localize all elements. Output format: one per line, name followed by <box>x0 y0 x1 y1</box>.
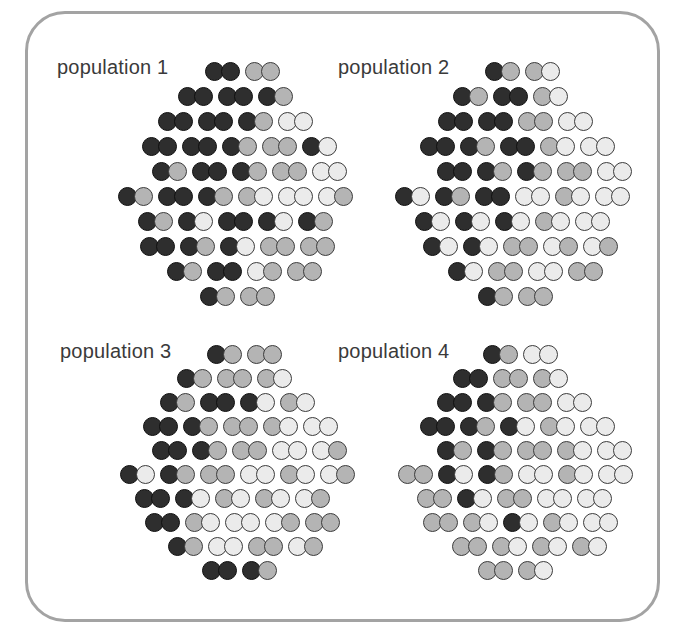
gray-allele-dot <box>519 237 538 256</box>
light-allele-dot <box>319 417 338 436</box>
individual-allele-pair <box>533 87 568 106</box>
population-1-row-9 <box>167 262 322 281</box>
light-allele-dot <box>508 537 527 556</box>
light-allele-dot <box>328 162 347 181</box>
individual-allele-pair <box>497 489 532 508</box>
dark-allele-dot <box>469 369 488 388</box>
gray-allele-dot <box>154 212 173 231</box>
light-allele-dot <box>224 537 243 556</box>
individual-allele-pair <box>523 345 558 364</box>
individual-allele-pair <box>198 187 233 206</box>
gray-allele-dot <box>336 465 355 484</box>
light-allele-dot <box>553 489 572 508</box>
individual-allele-pair <box>240 465 275 484</box>
population-1-row-7 <box>138 212 333 231</box>
dark-allele-dot <box>156 237 175 256</box>
gray-allele-dot <box>533 393 552 412</box>
gray-allele-dot <box>176 465 195 484</box>
individual-allele-pair <box>417 489 452 508</box>
gray-allele-dot <box>509 369 528 388</box>
light-allele-dot <box>574 112 593 131</box>
light-allele-dot <box>294 187 313 206</box>
individual-allele-pair <box>478 465 513 484</box>
individual-allele-pair <box>287 262 322 281</box>
individual-allele-pair <box>208 537 243 556</box>
figure-stage: population 1 population 2 population 3 p… <box>0 0 684 642</box>
individual-allele-pair <box>135 489 170 508</box>
gray-allele-dot <box>599 237 618 256</box>
individual-allele-pair <box>540 417 575 436</box>
individual-allele-pair <box>528 262 563 281</box>
dark-allele-dot <box>161 513 180 532</box>
individual-allele-pair <box>423 513 458 532</box>
light-allele-dot <box>571 187 590 206</box>
dark-allele-dot <box>168 441 187 460</box>
individual-allele-pair <box>143 417 178 436</box>
light-allele-dot <box>556 417 575 436</box>
individual-allele-pair <box>420 137 455 156</box>
individual-allele-pair <box>302 137 337 156</box>
gray-allele-dot <box>278 137 297 156</box>
light-allele-dot <box>556 137 575 156</box>
population-1-row-5 <box>152 162 347 181</box>
individual-allele-pair <box>262 137 297 156</box>
gray-allele-dot <box>184 537 203 556</box>
individual-allele-pair <box>580 417 615 436</box>
individual-allele-pair <box>280 465 315 484</box>
individual-allele-pair <box>457 489 492 508</box>
individual-allele-pair <box>517 162 552 181</box>
light-allele-dot <box>534 465 553 484</box>
individual-allele-pair <box>543 237 578 256</box>
population-4-row-1 <box>483 345 558 364</box>
light-allele-dot <box>274 212 293 231</box>
dark-allele-dot <box>194 87 213 106</box>
individual-allele-pair <box>488 262 523 281</box>
individual-allele-pair <box>138 212 173 231</box>
light-allele-dot <box>471 212 490 231</box>
gray-allele-dot <box>476 417 495 436</box>
light-allele-dot <box>551 212 570 231</box>
light-allele-dot <box>541 62 560 81</box>
individual-allele-pair <box>583 513 618 532</box>
individual-allele-pair <box>192 441 227 460</box>
individual-allele-pair <box>300 237 335 256</box>
population-2-row-8 <box>423 237 618 256</box>
individual-allele-pair <box>477 162 512 181</box>
individual-allele-pair <box>452 537 487 556</box>
individual-allele-pair <box>220 237 255 256</box>
gray-allele-dot <box>469 87 488 106</box>
population-3-row-2 <box>177 369 292 388</box>
individual-allele-pair <box>272 162 307 181</box>
light-allele-dot <box>593 489 612 508</box>
dark-allele-dot <box>453 393 472 412</box>
gray-allele-dot <box>494 561 513 580</box>
gray-allele-dot <box>261 62 280 81</box>
population-3-row-3 <box>160 393 315 412</box>
light-allele-dot <box>613 162 632 181</box>
light-allele-dot <box>613 441 632 460</box>
light-allele-dot <box>256 393 275 412</box>
light-allele-dot <box>279 417 298 436</box>
population-2-row-1 <box>485 62 560 81</box>
light-allele-dot <box>431 212 450 231</box>
individual-allele-pair <box>437 162 472 181</box>
individual-allele-pair <box>597 162 632 181</box>
individual-allele-pair <box>485 62 520 81</box>
individual-allele-pair <box>218 212 253 231</box>
gray-allele-dot <box>439 513 458 532</box>
individual-allele-pair <box>518 112 553 131</box>
individual-allele-pair <box>415 212 450 231</box>
individual-allele-pair <box>240 393 275 412</box>
gray-allele-dot <box>134 187 153 206</box>
individual-allele-pair <box>312 162 347 181</box>
individual-allele-pair <box>532 537 567 556</box>
population-2-row-9 <box>448 262 603 281</box>
light-allele-dot <box>271 489 290 508</box>
dark-allele-dot <box>234 212 253 231</box>
dark-allele-dot <box>151 489 170 508</box>
individual-allele-pair <box>537 489 572 508</box>
population-1-row-6 <box>118 187 353 206</box>
gray-allele-dot <box>414 465 433 484</box>
gray-allele-dot <box>168 162 187 181</box>
light-allele-dot <box>573 393 592 412</box>
